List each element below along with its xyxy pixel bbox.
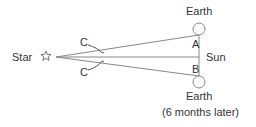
angle-a-label: A — [192, 38, 199, 50]
angle-c-bottom-label: C — [80, 66, 88, 78]
earth-bottom-note: (6 months later) — [162, 106, 239, 118]
earth-top-circle — [193, 23, 205, 35]
earth-bottom-circle — [193, 76, 205, 88]
angle-b-label: B — [192, 63, 199, 75]
star-outline-icon — [41, 51, 51, 60]
angle-c-top-label: C — [80, 36, 88, 48]
earth-bottom-label: Earth — [186, 90, 212, 102]
earth-top-label: Earth — [186, 5, 212, 17]
sun-label: Sun — [206, 51, 226, 63]
line-star-to-earth-bottom — [56, 57, 199, 76]
line-star-to-earth-top — [56, 35, 199, 57]
star-label: Star — [12, 51, 32, 63]
